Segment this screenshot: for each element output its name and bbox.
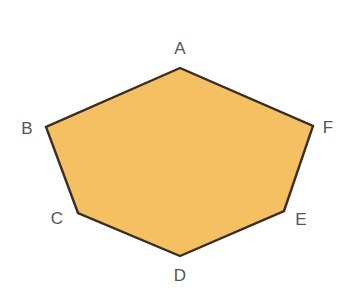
- vertex-label-b: B: [21, 120, 33, 137]
- vertex-label-e: E: [295, 211, 307, 228]
- vertex-label-d: D: [174, 267, 186, 284]
- vertex-label-c: C: [51, 210, 63, 227]
- vertex-label-a: A: [174, 40, 186, 57]
- vertex-label-f: F: [323, 119, 334, 136]
- diagram-canvas: A B C D E F: [0, 0, 349, 298]
